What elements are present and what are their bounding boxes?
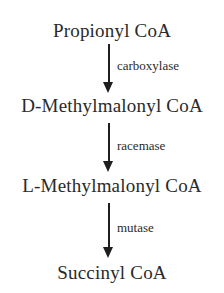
compound-l-methylmalonyl-coa: L-Methylmalonyl CoA xyxy=(0,175,224,197)
propionate-metabolism-pathway: Propionyl CoA carboxylase D-Methylmalony… xyxy=(0,0,224,293)
compound-d-methylmalonyl-coa: D-Methylmalonyl CoA xyxy=(0,95,224,117)
enzyme-label-carboxylase: carboxylase xyxy=(117,58,179,73)
down-arrow-icon xyxy=(103,44,115,94)
down-arrow-icon xyxy=(103,123,115,173)
compound-succinyl-coa: Succinyl CoA xyxy=(0,262,224,284)
compound-propionyl-coa: Propionyl CoA xyxy=(0,20,224,42)
down-arrow-icon xyxy=(103,203,115,259)
enzyme-label-racemase: racemase xyxy=(117,138,165,153)
enzyme-label-mutase: mutase xyxy=(117,220,154,235)
